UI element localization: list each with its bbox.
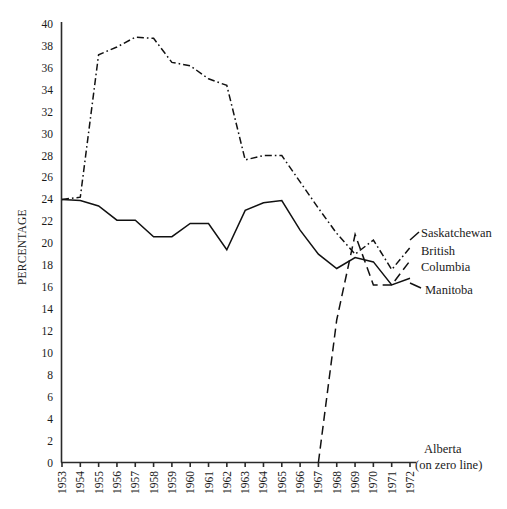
series-label-alberta-line2: (on zero line) xyxy=(415,458,482,472)
x-axis-tick-labels: 1953195419551956195719581959196019611962… xyxy=(56,463,416,495)
x-tick-label: 1971 xyxy=(386,471,398,494)
y-tick-label: 40 xyxy=(42,18,54,30)
y-tick-label: 6 xyxy=(47,391,53,403)
series-line-british-columbia xyxy=(318,235,410,463)
y-tick-label: 16 xyxy=(42,281,54,293)
x-tick-label: 1966 xyxy=(294,471,306,494)
x-tick-label: 1968 xyxy=(331,471,343,494)
x-tick-label: 1972 xyxy=(404,471,416,494)
x-tick-label: 1970 xyxy=(367,471,379,494)
y-tick-label: 2 xyxy=(47,435,53,447)
series-label-saskatchewan: Saskatchewan xyxy=(421,226,493,240)
series-label-manitoba: Manitoba xyxy=(425,283,473,297)
series-label-british-columbia-line1: British xyxy=(421,244,456,258)
y-tick-label: 38 xyxy=(42,40,54,52)
x-tick-label: 1965 xyxy=(276,471,288,494)
chart-container: 4038363432302826242220181614121086420 19… xyxy=(0,0,507,509)
y-tick-label: 12 xyxy=(42,325,54,337)
y-tick-label: 22 xyxy=(42,215,54,227)
x-tick-label: 1963 xyxy=(239,471,251,494)
x-tick-label: 1956 xyxy=(111,471,123,494)
y-tick-label: 10 xyxy=(42,347,54,359)
series-label-alberta-line1: Alberta xyxy=(424,442,462,456)
x-tick-label: 1958 xyxy=(148,471,160,494)
x-tick-label: 1967 xyxy=(312,471,324,494)
y-axis-title: PERCENTAGE xyxy=(16,209,28,285)
y-tick-label: 20 xyxy=(42,237,54,249)
x-tick-label: 1953 xyxy=(56,471,68,494)
leader-manitoba xyxy=(410,283,421,288)
y-tick-label: 26 xyxy=(42,171,54,183)
y-tick-label: 34 xyxy=(42,84,54,96)
y-tick-label: 8 xyxy=(47,369,53,381)
series-line-saskatchewan xyxy=(62,37,410,269)
data-series-group xyxy=(62,37,410,462)
y-tick-label: 4 xyxy=(47,413,53,425)
x-tick-label: 1969 xyxy=(349,471,361,494)
leader-saskatchewan xyxy=(410,232,419,240)
x-tick-label: 1962 xyxy=(221,471,233,494)
x-tick-label: 1957 xyxy=(129,471,141,494)
x-tick-label: 1960 xyxy=(184,471,196,494)
y-tick-label: 28 xyxy=(42,150,54,162)
y-tick-label: 30 xyxy=(42,128,54,140)
y-axis-tick-labels: 4038363432302826242220181614121086420 xyxy=(42,18,54,469)
series-label-british-columbia-line2: Columbia xyxy=(421,260,471,274)
x-tick-label: 1954 xyxy=(74,471,86,494)
x-tick-label: 1961 xyxy=(203,471,215,494)
y-tick-label: 18 xyxy=(42,259,54,271)
x-tick-label: 1964 xyxy=(257,471,269,494)
y-tick-label: 0 xyxy=(47,457,53,469)
x-tick-label: 1955 xyxy=(93,471,105,494)
y-tick-label: 14 xyxy=(42,303,54,315)
y-tick-label: 24 xyxy=(42,193,54,205)
y-tick-label: 36 xyxy=(42,62,54,74)
y-tick-label: 32 xyxy=(42,106,54,118)
line-chart-plot: 4038363432302826242220181614121086420 19… xyxy=(0,0,507,509)
x-tick-label: 1959 xyxy=(166,471,178,494)
